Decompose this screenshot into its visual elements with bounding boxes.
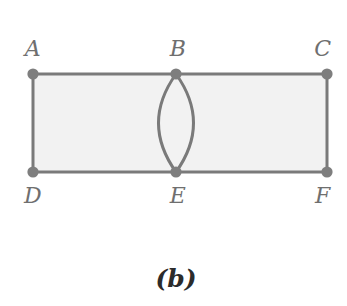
shaded-face-right bbox=[176, 74, 327, 172]
figure-container: A B C D E F (b) bbox=[0, 0, 347, 306]
vertex-label-a: A bbox=[25, 38, 41, 60]
vertex-label-b: B bbox=[170, 38, 187, 60]
vertex-label-c: C bbox=[314, 38, 331, 60]
vertex-c bbox=[321, 68, 332, 79]
vertex-e bbox=[170, 166, 181, 177]
vertex-label-e: E bbox=[170, 185, 187, 207]
vertex-d bbox=[27, 166, 38, 177]
vertex-label-f: F bbox=[315, 185, 331, 207]
figure-caption: (b) bbox=[155, 266, 196, 291]
vertex-b bbox=[170, 68, 181, 79]
vertex-label-d: D bbox=[24, 185, 42, 207]
shaded-face-left bbox=[33, 74, 176, 172]
vertex-f bbox=[321, 166, 332, 177]
vertex-a bbox=[27, 68, 38, 79]
